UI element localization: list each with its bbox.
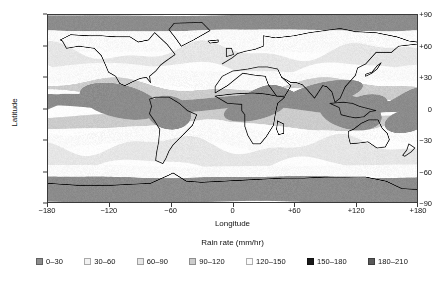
- latitude-tick-label: +90: [391, 10, 432, 19]
- legend-item: 60–90: [137, 257, 168, 266]
- legend-item-label: 150–180: [317, 257, 347, 266]
- legend-swatch-icon: [307, 258, 314, 265]
- longitude-tick-mark: [294, 203, 295, 207]
- map-plot-area: [47, 14, 418, 203]
- legend-item: 180–210: [368, 257, 408, 266]
- legend-item: 120–150: [246, 257, 286, 266]
- legend-swatch-icon: [246, 258, 253, 265]
- latitude-axis: Latitude: [0, 0, 41, 282]
- longitude-tick-label: +60: [288, 206, 301, 215]
- legend-item-label: 120–150: [256, 257, 286, 266]
- latitude-tick-mark: [43, 45, 47, 46]
- legend-item-label: 60–90: [147, 257, 168, 266]
- legend-item-label: 90–120: [199, 257, 225, 266]
- legend-item-label: 30–60: [94, 257, 115, 266]
- latitude-tick-label: −60: [391, 167, 432, 176]
- latitude-tick-label: −30: [391, 136, 432, 145]
- legend-swatch-icon: [137, 258, 144, 265]
- latitude-tick-mark: [43, 140, 47, 141]
- latitude-tick-mark: [43, 171, 47, 172]
- longitude-tick-label: −180: [39, 206, 56, 215]
- latitude-tick-mark: [43, 77, 47, 78]
- legend-swatch-icon: [84, 258, 91, 265]
- latitude-tick-mark: [43, 108, 47, 109]
- longitude-tick-mark: [233, 203, 234, 207]
- legend-item-label: 180–210: [378, 257, 408, 266]
- legend-swatch-icon: [189, 258, 196, 265]
- longitude-tick-label: 0: [230, 206, 234, 215]
- legend-title: Rain rate (mm/hr): [47, 238, 418, 247]
- longitude-tick-mark: [171, 203, 172, 207]
- longitude-tick-label: −60: [164, 206, 177, 215]
- longitude-tick-label: +180: [410, 206, 427, 215]
- legend-swatch-icon: [36, 258, 43, 265]
- y-axis-label: Latitude: [10, 83, 19, 143]
- legend-item: 0–30: [36, 257, 63, 266]
- legend-swatch-icon: [368, 258, 375, 265]
- rain-rate-legend: 0–3030–6060–9090–120120–150150–180180–21…: [36, 254, 408, 268]
- latitude-tick-label: 0: [391, 104, 432, 113]
- longitude-tick-mark: [417, 203, 418, 207]
- latitude-tick-mark: [43, 14, 47, 15]
- rain-rate-world-map-figure: Latitude +90+60+300−30−60−90 −180−120−60…: [0, 0, 432, 282]
- legend-item-label: 0–30: [46, 257, 63, 266]
- longitude-tick-mark: [47, 203, 48, 207]
- legend-item: 30–60: [84, 257, 115, 266]
- latitude-tick-label: +60: [391, 41, 432, 50]
- x-axis-label: Longitude: [47, 219, 418, 228]
- longitude-tick-label: +120: [348, 206, 365, 215]
- longitude-tick-mark: [109, 203, 110, 207]
- rain-rate-map-canvas: [48, 15, 417, 202]
- longitude-tick-mark: [356, 203, 357, 207]
- latitude-tick-label: +30: [391, 73, 432, 82]
- legend-item: 90–120: [189, 257, 225, 266]
- legend-item: 150–180: [307, 257, 347, 266]
- longitude-tick-label: −120: [100, 206, 117, 215]
